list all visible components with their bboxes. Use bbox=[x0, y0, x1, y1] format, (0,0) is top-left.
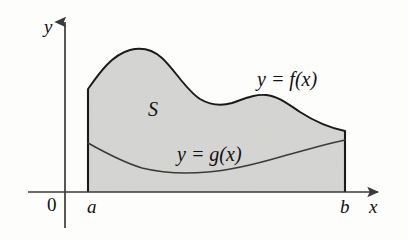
area-between-curves-figure: y x 0 a b S y = f(x) y = g(x) bbox=[0, 0, 408, 240]
origin-label: 0 bbox=[47, 195, 57, 214]
upper-curve-label: y = f(x) bbox=[257, 69, 317, 89]
right-bound-label-b: b bbox=[340, 197, 350, 216]
left-bound-label-a: a bbox=[87, 197, 97, 216]
y-axis-label: y bbox=[44, 17, 52, 36]
x-axis-label: x bbox=[369, 197, 377, 216]
region-label-s: S bbox=[148, 99, 158, 119]
lower-curve-label: y = g(x) bbox=[177, 144, 242, 164]
